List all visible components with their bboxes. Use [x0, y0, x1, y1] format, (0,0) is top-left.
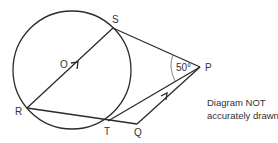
line-rs — [27, 28, 113, 108]
label-r: R — [15, 106, 22, 117]
label-t: T — [104, 126, 110, 137]
line-qp — [137, 67, 200, 124]
angle-label: 50° — [176, 62, 191, 73]
line-tp — [108, 67, 200, 121]
geometry-diagram: O S R T Q P 50° Diagram NOT accurately d… — [0, 0, 278, 143]
label-s: S — [112, 14, 119, 25]
note-line-1: Diagram NOT — [207, 97, 266, 108]
angle-arc — [171, 55, 175, 81]
label-p: P — [205, 62, 212, 73]
note-line-2: accurately drawn — [207, 110, 278, 121]
label-q: Q — [134, 127, 142, 138]
label-o: O — [60, 59, 68, 70]
